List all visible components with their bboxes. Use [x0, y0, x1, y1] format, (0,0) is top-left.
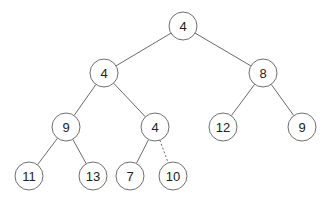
- tree-node: 9: [52, 113, 80, 141]
- tree-node: 11: [15, 162, 43, 190]
- node-label: 7: [126, 169, 133, 184]
- tree-edge: [73, 139, 86, 163]
- node-label: 4: [151, 120, 158, 135]
- tree-node: 13: [79, 162, 107, 190]
- tree-edge: [160, 140, 168, 163]
- tree-edge: [114, 83, 146, 117]
- node-label: 13: [86, 169, 100, 184]
- tree-edge: [74, 84, 96, 115]
- tree-diagram: 448941291113710: [0, 0, 330, 203]
- tree-edge: [37, 138, 57, 165]
- tree-node: 4: [141, 113, 169, 141]
- tree-node: 7: [116, 162, 144, 190]
- tree-node: 12: [209, 113, 237, 141]
- node-label: 11: [22, 169, 36, 184]
- tree-edge: [116, 33, 171, 66]
- tree-node: 4: [169, 12, 197, 40]
- tree-edge: [271, 84, 294, 115]
- tree-node: 8: [249, 59, 277, 87]
- node-label: 4: [100, 66, 107, 81]
- tree-node: 9: [288, 113, 316, 141]
- node-label: 8: [259, 66, 266, 81]
- node-label: 10: [166, 169, 180, 184]
- tree-node: 10: [159, 162, 187, 190]
- tree-node: 4: [90, 59, 118, 87]
- node-label: 9: [62, 120, 69, 135]
- edges: [37, 33, 293, 165]
- node-label: 4: [179, 19, 186, 34]
- node-label: 12: [216, 120, 230, 135]
- node-label: 9: [298, 120, 305, 135]
- tree-edge: [231, 84, 254, 116]
- tree-edge: [136, 139, 148, 163]
- nodes: 448941291113710: [15, 12, 316, 190]
- tree-edge: [195, 33, 251, 66]
